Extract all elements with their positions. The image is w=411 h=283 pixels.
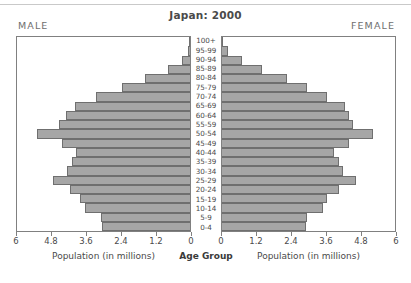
chart-title: Japan: 2000 (0, 9, 411, 21)
male-bar-100+ (189, 37, 190, 46)
male-bar-75-79 (122, 83, 190, 92)
table-row (222, 37, 395, 46)
age-group-label-60-64: 60-64 (191, 111, 221, 120)
table-row (17, 74, 190, 83)
age-group-label-40-44: 40-44 (191, 148, 221, 157)
age-group-label-25-29: 25-29 (191, 176, 221, 185)
age-group-label-55-59: 55-59 (191, 120, 221, 129)
age-group-label-20-24: 20-24 (191, 185, 221, 194)
table-row (17, 185, 190, 194)
age-group-label-75-79: 75-79 (191, 83, 221, 92)
male-bar-55-59 (59, 120, 190, 129)
male-bar-95-99 (188, 46, 190, 55)
table-row (17, 92, 190, 101)
female-side-label: FEMALE (351, 20, 395, 31)
female-bar-40-44 (222, 148, 334, 157)
table-row (17, 148, 190, 157)
table-row (222, 213, 395, 222)
table-row (17, 46, 190, 55)
table-row (17, 83, 190, 92)
table-row (222, 102, 395, 111)
female-bar-55-59 (222, 120, 353, 129)
table-row (17, 37, 190, 46)
female-bar-90-94 (222, 56, 242, 65)
male-bar-80-84 (145, 74, 190, 83)
table-row (222, 46, 395, 55)
table-row (17, 213, 190, 222)
table-row (17, 65, 190, 74)
table-row (222, 166, 395, 175)
table-row (222, 111, 395, 120)
table-row (222, 148, 395, 157)
table-row (222, 74, 395, 83)
table-row (17, 111, 190, 120)
male-tick-label-6: 6 (13, 236, 18, 246)
male-bar-90-94 (182, 56, 190, 65)
table-row (222, 83, 395, 92)
table-row (17, 157, 190, 166)
female-bar-85-89 (222, 65, 262, 74)
age-group-label-70-74: 70-74 (191, 92, 221, 101)
table-row (222, 65, 395, 74)
female-tick-label-0: 0 (218, 236, 223, 246)
age-group-label-30-34: 30-34 (191, 167, 221, 176)
male-bar-25-29 (53, 176, 190, 185)
female-bar-80-84 (222, 74, 287, 83)
female-tick-label-2.4: 2.4 (284, 236, 298, 246)
table-row (222, 185, 395, 194)
female-bar-5-9 (222, 213, 307, 222)
age-group-axis: 0-45-910-1415-1920-2425-2930-3435-3940-4… (191, 36, 221, 232)
table-row (17, 194, 190, 203)
age-group-label-50-54: 50-54 (191, 129, 221, 138)
male-bar-20-24 (70, 185, 190, 194)
female-bar-100+ (222, 37, 223, 46)
population-pyramid-chart: Japan: 2000 MALE FEMALE 0-45-910-1415-19… (0, 0, 411, 283)
age-group-label-85-89: 85-89 (191, 64, 221, 73)
age-group-axis-title: Age Group (166, 251, 246, 261)
female-bar-50-54 (222, 129, 373, 138)
female-tick-label-6: 6 (393, 236, 398, 246)
female-bar-15-19 (222, 194, 327, 203)
table-row (222, 203, 395, 212)
age-group-label-5-9: 5-9 (191, 213, 221, 222)
male-bar-85-89 (168, 65, 190, 74)
table-row (222, 56, 395, 65)
table-row (17, 166, 190, 175)
age-group-label-0-4: 0-4 (191, 223, 221, 232)
male-bar-15-19 (80, 194, 190, 203)
top-divider (0, 4, 411, 5)
female-bar-35-39 (222, 157, 339, 166)
male-bar-rows (17, 37, 190, 231)
male-bar-5-9 (101, 213, 190, 222)
female-bar-60-64 (222, 111, 349, 120)
table-row (17, 129, 190, 138)
age-group-label-95-99: 95-99 (191, 45, 221, 54)
female-tick-label-3.6: 3.6 (319, 236, 333, 246)
male-bar-65-69 (75, 102, 190, 111)
female-tick-label-1.2: 1.2 (249, 236, 263, 246)
female-axis-title: Population (in millions) (221, 251, 396, 261)
female-bar-rows (222, 37, 395, 231)
table-row (17, 222, 190, 231)
age-group-label-80-84: 80-84 (191, 73, 221, 82)
female-bar-25-29 (222, 176, 356, 185)
female-axis-tick-labels: 01.22.43.64.86 (221, 236, 396, 248)
male-bar-10-14 (85, 203, 190, 212)
table-row (17, 176, 190, 185)
male-tick-label-0: 0 (188, 236, 193, 246)
male-bar-60-64 (66, 111, 190, 120)
age-group-label-35-39: 35-39 (191, 157, 221, 166)
female-bar-65-69 (222, 102, 345, 111)
table-row (222, 157, 395, 166)
table-row (17, 203, 190, 212)
age-group-label-90-94: 90-94 (191, 55, 221, 64)
age-group-label-15-19: 15-19 (191, 195, 221, 204)
table-row (222, 120, 395, 129)
table-row (222, 194, 395, 203)
male-bar-40-44 (76, 148, 190, 157)
table-row (222, 139, 395, 148)
female-bar-95-99 (222, 46, 228, 55)
male-bar-30-34 (67, 166, 190, 175)
male-plot-panel (16, 36, 191, 232)
age-group-label-100+: 100+ (191, 36, 221, 45)
